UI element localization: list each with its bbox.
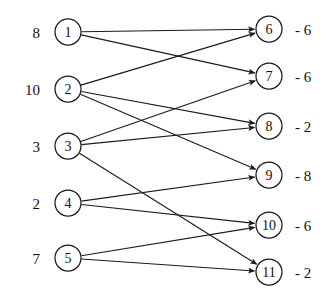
node-9-label: 9 bbox=[266, 168, 273, 183]
bipartite-graph-diagram: 182103342576- 67- 68- 29- 810- 611- 2 bbox=[0, 0, 335, 297]
demand-value-node-11: - 2 bbox=[295, 265, 311, 281]
edge-5-to-11[interactable] bbox=[81, 259, 254, 271]
edge-2-to-9[interactable] bbox=[80, 94, 255, 169]
edges-layer bbox=[79, 29, 256, 271]
edge-3-to-11[interactable] bbox=[79, 153, 256, 264]
edge-5-to-10[interactable] bbox=[81, 227, 254, 255]
node-11-label: 11 bbox=[262, 265, 275, 280]
node-1-label: 1 bbox=[65, 25, 72, 40]
supply-value-node-4: 2 bbox=[33, 196, 41, 212]
node-7-label: 7 bbox=[266, 69, 273, 84]
node-6-label: 6 bbox=[266, 22, 273, 37]
node-2-label: 2 bbox=[65, 82, 72, 97]
supply-value-node-1: 8 bbox=[33, 25, 41, 41]
demand-value-node-6: - 6 bbox=[295, 22, 312, 38]
edge-2-to-8[interactable] bbox=[81, 91, 254, 123]
node-4-label: 4 bbox=[65, 196, 72, 211]
supply-value-node-5: 7 bbox=[33, 251, 41, 267]
edge-3-to-7[interactable] bbox=[81, 81, 256, 142]
edge-1-to-6[interactable] bbox=[82, 29, 255, 32]
graph-canvas: 182103342576- 67- 68- 29- 810- 611- 2 bbox=[0, 0, 335, 297]
demand-value-node-7: - 6 bbox=[295, 69, 312, 85]
demand-value-node-9: - 8 bbox=[295, 168, 311, 184]
demand-value-node-8: - 2 bbox=[295, 119, 311, 135]
edge-4-to-9[interactable] bbox=[81, 177, 254, 201]
nodes-layer bbox=[55, 16, 282, 285]
node-10-label: 10 bbox=[262, 218, 276, 233]
demand-value-node-10: - 6 bbox=[295, 218, 312, 234]
supply-value-node-3: 3 bbox=[33, 139, 41, 155]
edge-3-to-8[interactable] bbox=[81, 127, 254, 144]
node-5-label: 5 bbox=[65, 251, 72, 266]
node-8-label: 8 bbox=[266, 119, 273, 134]
supply-value-node-2: 10 bbox=[25, 82, 40, 98]
node-3-label: 3 bbox=[65, 139, 72, 154]
edge-4-to-10[interactable] bbox=[81, 204, 254, 223]
